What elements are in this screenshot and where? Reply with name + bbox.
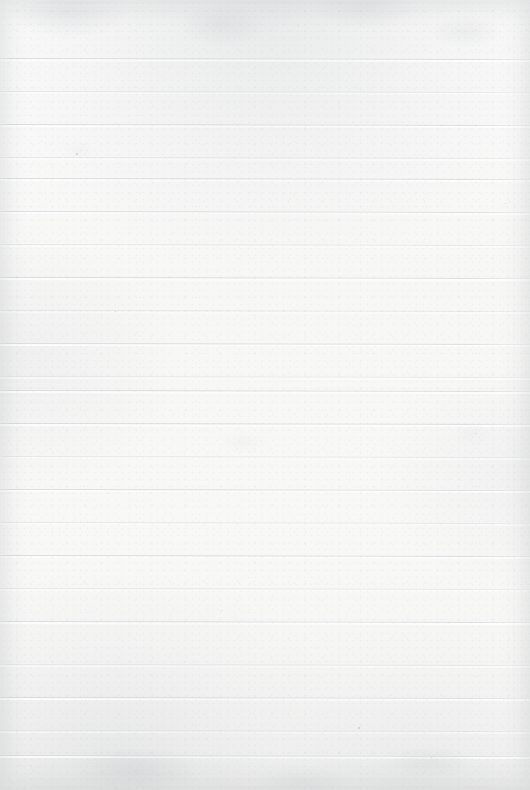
- page-number: [0, 0, 1, 1]
- page-writing-area[interactable]: [0, 0, 530, 790]
- page-body-text: [0, 0, 1, 1]
- page-heading: [0, 0, 1, 1]
- notebook-page: [0, 0, 530, 790]
